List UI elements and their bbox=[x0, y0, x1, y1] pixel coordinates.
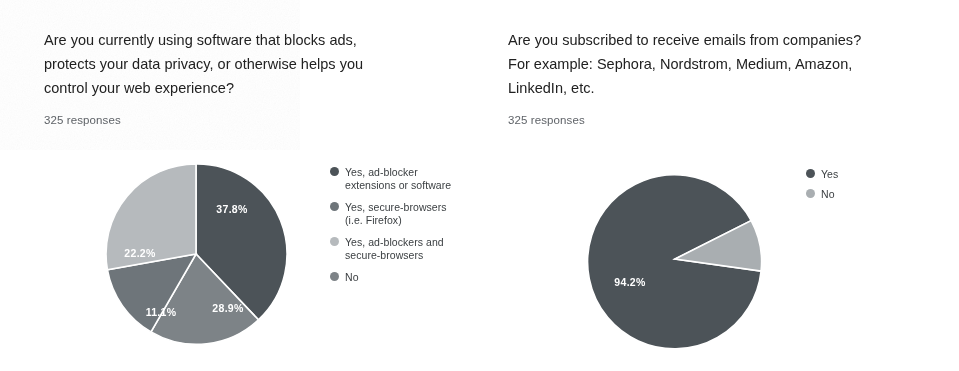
question-panel-right: Are you subscribed to receive emails fro… bbox=[500, 0, 959, 371]
legend-swatch-icon bbox=[330, 237, 339, 246]
legend-left: Yes, ad-blocker extensions or software Y… bbox=[330, 166, 480, 293]
question-title-left: Are you currently using software that bl… bbox=[44, 28, 394, 100]
legend-right: Yes No bbox=[806, 168, 926, 208]
legend-item-adblockers-and-secure-browsers[interactable]: Yes, ad-blockers and secure-browsers bbox=[330, 236, 480, 262]
legend-item-yes[interactable]: Yes bbox=[806, 168, 926, 181]
pie-chart-right-svg: 94.2% bbox=[586, 164, 778, 356]
legend-item-label: No bbox=[821, 188, 835, 201]
pie-chart-right: 94.2% bbox=[586, 164, 778, 356]
response-count-left: 325 responses bbox=[44, 113, 121, 127]
legend-item-label: No bbox=[345, 271, 359, 284]
legend-swatch-icon bbox=[330, 202, 339, 211]
legend-swatch-icon bbox=[806, 169, 815, 178]
legend-item-no[interactable]: No bbox=[806, 188, 926, 201]
legend-swatch-icon bbox=[330, 272, 339, 281]
legend-item-secure-browsers[interactable]: Yes, secure-browsers (i.e. Firefox) bbox=[330, 201, 480, 227]
legend-item-label: Yes, ad-blockers and secure-browsers bbox=[345, 236, 444, 262]
pie-chart-left-svg: 37.8% 28.9% 11.1% 22.2% bbox=[100, 158, 300, 358]
legend-swatch-icon bbox=[806, 189, 815, 198]
legend-item-label: Yes, secure-browsers (i.e. Firefox) bbox=[345, 201, 447, 227]
pie-slice-label-11-1: 11.1% bbox=[146, 306, 177, 318]
response-count-right: 325 responses bbox=[508, 113, 585, 127]
legend-swatch-icon bbox=[330, 167, 339, 176]
pie-chart-left: 37.8% 28.9% 11.1% 22.2% bbox=[100, 158, 300, 358]
pie-slice-label-28-9: 28.9% bbox=[212, 302, 244, 314]
legend-item-label: Yes bbox=[821, 168, 838, 181]
pie-slice-label-22-2: 22.2% bbox=[124, 247, 156, 259]
legend-item-no[interactable]: No bbox=[330, 271, 480, 284]
question-title-right: Are you subscribed to receive emails fro… bbox=[508, 28, 888, 100]
pie-slice-label-94-2: 94.2% bbox=[614, 276, 646, 288]
question-panel-left: Are you currently using software that bl… bbox=[0, 0, 500, 371]
legend-item-label: Yes, ad-blocker extensions or software bbox=[345, 166, 451, 192]
legend-item-ad-blocker-extensions[interactable]: Yes, ad-blocker extensions or software bbox=[330, 166, 480, 192]
pie-slice-label-37-8: 37.8% bbox=[216, 203, 248, 215]
